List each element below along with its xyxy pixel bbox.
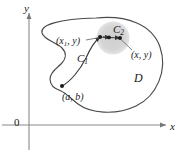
point-label-x1-y-open: (x	[56, 35, 64, 46]
curve-label-c1: C1	[77, 53, 88, 66]
curve-label-c1-sub: 1	[84, 57, 88, 66]
y-axis-label: y	[24, 3, 29, 14]
region-label-d: D	[134, 72, 143, 84]
point-mid	[107, 36, 111, 40]
point-x1-y	[98, 35, 102, 39]
origin-label: 0	[14, 117, 20, 128]
figure-container: y x 0 (x1, y) C1 C2 (x, y) D (a, b)	[0, 0, 181, 153]
curve-label-c2: C2	[113, 24, 124, 37]
point-a-b	[60, 84, 64, 88]
point-label-a-b: (a, b)	[62, 92, 84, 102]
point-label-x1-y: (x1, y)	[56, 36, 80, 48]
x-axis-label: x	[170, 121, 175, 132]
vector-figure	[0, 0, 181, 153]
point-label-x-y: (x, y)	[131, 50, 152, 60]
curve-label-c2-sub: 2	[120, 28, 124, 37]
point-label-x1-y-rest: , y)	[67, 35, 80, 46]
